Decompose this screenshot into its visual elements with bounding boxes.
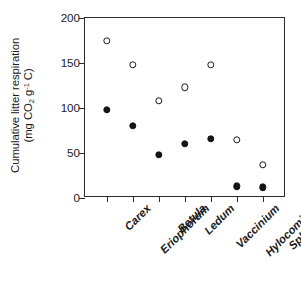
data-point (155, 151, 162, 158)
y-axis-title-unit-post: C) (23, 68, 35, 83)
y-axis-title-line2: ​(mg CO2 g-1 C) (23, 37, 36, 172)
co2-subscript: 2 (28, 99, 37, 103)
data-point (259, 183, 266, 190)
y-axis-tick (79, 153, 85, 154)
x-axis-category-label: Carex (122, 202, 153, 233)
data-point (181, 84, 188, 91)
data-point (207, 61, 214, 68)
y-axis-tick-label: 150 (44, 56, 80, 69)
y-axis-tick-label: 50 (44, 146, 80, 159)
y-axis-tick (79, 18, 85, 19)
data-point (129, 61, 136, 68)
plot-area (84, 17, 285, 197)
y-axis-tick-label: 100 (44, 101, 80, 114)
y-axis-tick-label: 200 (44, 11, 80, 24)
data-point (103, 37, 110, 44)
y-axis-title-unit-mid: g (23, 89, 35, 98)
data-point (233, 136, 240, 143)
y-axis-tick-labels: 050100150200 (44, 0, 80, 288)
data-point (207, 135, 214, 142)
data-point (233, 183, 240, 190)
y-axis-tick (79, 63, 85, 64)
y-axis-title: Cumulative litter respiration ​(mg CO2 g… (0, 0, 46, 210)
data-point (259, 161, 266, 168)
data-point (129, 122, 136, 129)
data-point (103, 106, 110, 113)
y-axis-tick (79, 108, 85, 109)
data-point (155, 97, 162, 104)
y-axis-tick-label: 0 (44, 191, 80, 204)
per-gram-superscript: -1 (23, 83, 32, 90)
x-axis-category-labels: CarexEriophorumBetulaLedumVacciniumHyloc… (84, 197, 285, 288)
y-axis-title-line1: Cumulative litter respiration (10, 37, 22, 172)
scatter-chart-figure: Cumulative litter respiration ​(mg CO2 g… (0, 0, 301, 288)
data-point (181, 140, 188, 147)
y-axis-title-unit-pre: (mg CO (23, 103, 35, 142)
